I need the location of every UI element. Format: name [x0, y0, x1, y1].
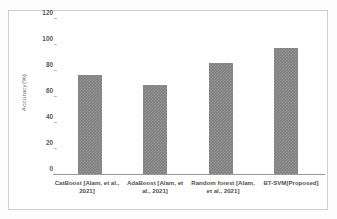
x-axis-category-label: CatBoost [Alam, et al., 2021] — [53, 179, 121, 213]
x-axis-category-label: Random forest [Alam, et al., 2021] — [189, 179, 257, 213]
bar — [209, 63, 233, 175]
bar — [78, 75, 102, 175]
y-axis-tick-mark — [54, 44, 57, 45]
accuracy-bar-chart: Accuracy(%) 020406080100120 CatBoost [Al… — [0, 0, 337, 219]
plot-area: 020406080100120 — [57, 19, 319, 175]
chart-frame: Accuracy(%) 020406080100120 CatBoost [Al… — [8, 10, 328, 210]
y-axis-tick-mark — [54, 148, 57, 149]
y-axis-tick-label: 0 — [49, 165, 53, 172]
y-axis-tick-mark — [54, 70, 57, 71]
y-axis-tick-mark — [54, 96, 57, 97]
y-axis-tick-label: 80 — [46, 61, 53, 68]
y-axis-tick-mark — [54, 122, 57, 123]
y-axis-tick-label: 40 — [46, 113, 53, 120]
x-axis-category-labels: CatBoost [Alam, et al., 2021]AdaBoost [A… — [53, 179, 325, 213]
y-axis-tick-label: 100 — [42, 35, 53, 42]
x-axis-category-label: AdaBoost [Alam, et al., 2021] — [121, 179, 189, 213]
bar — [143, 85, 167, 175]
x-axis-line — [53, 174, 325, 175]
y-axis-tick-label: 20 — [46, 139, 53, 146]
y-axis-title: Accuracy(%) — [20, 53, 27, 133]
y-axis-tick-label: 120 — [42, 9, 53, 16]
x-axis-category-label: BT-SVM[Proposed] — [257, 179, 325, 213]
bar — [274, 48, 298, 175]
y-axis-tick-mark — [54, 18, 57, 19]
y-axis-tick-label: 60 — [46, 87, 53, 94]
